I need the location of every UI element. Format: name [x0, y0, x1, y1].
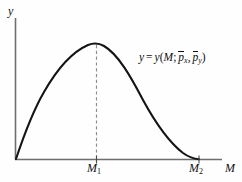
- equation-arg-m: M: [164, 51, 174, 63]
- m1-subscript: 1: [97, 167, 101, 176]
- equation-comma: ,: [188, 51, 191, 63]
- curve-equation-label: y=y(M;px,py): [139, 51, 206, 65]
- equation-semicolon: ;: [173, 51, 176, 63]
- m2-letter: M: [189, 161, 199, 175]
- equation-close-paren: ): [202, 51, 206, 63]
- equation-lhs: y: [139, 51, 144, 63]
- x-axis-label: M: [225, 162, 235, 174]
- m1-letter: M: [87, 161, 97, 175]
- m2-subscript: 2: [199, 167, 203, 176]
- equation-equals: =: [146, 51, 153, 63]
- x-tick-label-m2: M2: [189, 162, 203, 176]
- x-tick-label-m1: M1: [87, 162, 101, 176]
- plot-canvas: [0, 0, 242, 182]
- y-axis-label: y: [8, 5, 13, 17]
- figure-container: y M M1 M2 y=y(M;px,py): [0, 0, 242, 182]
